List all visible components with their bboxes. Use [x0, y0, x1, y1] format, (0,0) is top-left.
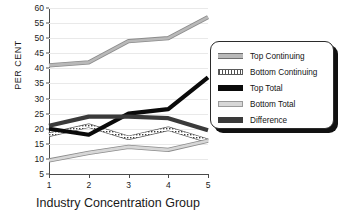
y-axis-tick-label: 20	[35, 124, 44, 134]
y-axis-tick-labels: 51015202530354045505560	[28, 8, 46, 186]
legend-swatch-difference-icon	[218, 117, 243, 123]
y-axis-tick-label: 5	[39, 169, 44, 179]
legend-label: Top Total	[250, 84, 283, 93]
x-axis-tick-mark	[129, 174, 130, 178]
x-axis-tick-label: 3	[126, 180, 131, 190]
chart-figure: PER CENT 51015202530354045505560 12345 I…	[0, 0, 343, 222]
series-canvas	[49, 8, 208, 174]
x-axis-tick-mark	[168, 174, 169, 178]
y-axis-tick-label: 35	[35, 78, 44, 88]
y-axis-tick-label: 25	[35, 109, 44, 119]
legend-label: Difference	[250, 116, 287, 125]
y-axis-tick-label: 50	[35, 33, 44, 43]
legend-label: Bottom Total	[250, 100, 295, 109]
x-axis-title: Industry Concentration Group	[18, 196, 218, 210]
x-axis-tick-label: 1	[47, 180, 52, 190]
y-axis-tick-label: 15	[35, 139, 44, 149]
series-bottom-total	[49, 141, 208, 161]
series-lines	[49, 8, 208, 174]
x-axis-tick-mark	[208, 174, 209, 178]
series-top-continuing	[49, 17, 208, 65]
y-axis-tick-label: 10	[35, 154, 44, 164]
plot-area: 51015202530354045505560 12345	[28, 8, 208, 186]
y-axis-tick-label: 60	[35, 3, 44, 13]
legend-item-bottom-total[interactable]: Bottom Total	[218, 96, 327, 112]
x-axis-tick-label: 5	[206, 180, 211, 190]
x-axis-tick-label: 2	[86, 180, 91, 190]
x-axis-tick-label: 4	[166, 180, 171, 190]
legend: Top Continuing Bottom Continuing Top Tot…	[210, 41, 334, 129]
y-axis-tick-label: 45	[35, 48, 44, 58]
legend-swatch-bottom-continuing-icon	[218, 69, 243, 75]
legend-label: Bottom Continuing	[250, 68, 317, 77]
x-axis-tick-mark	[49, 174, 50, 178]
legend-item-top-total[interactable]: Top Total	[218, 80, 327, 96]
legend-item-bottom-continuing[interactable]: Bottom Continuing	[218, 64, 327, 80]
legend-item-top-continuing[interactable]: Top Continuing	[218, 48, 327, 64]
legend-swatch-top-total-icon	[218, 85, 243, 91]
legend-swatch-bottom-total-icon	[218, 101, 243, 107]
legend-label: Top Continuing	[250, 52, 305, 61]
y-axis-tick-label: 40	[35, 63, 44, 73]
x-axis-tick-mark	[89, 174, 90, 178]
legend-item-difference[interactable]: Difference	[218, 112, 327, 128]
y-axis-title: PER CENT	[13, 25, 23, 105]
legend-swatch-top-continuing-icon	[218, 53, 243, 59]
y-axis-tick-label: 55	[35, 18, 44, 28]
y-axis-tick-label: 30	[35, 94, 44, 104]
series-top-total	[49, 77, 208, 134]
